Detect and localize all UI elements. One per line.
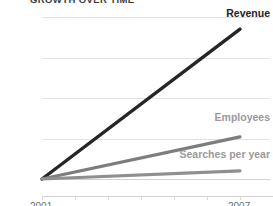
series-label-searches-per-year: Searches per year bbox=[180, 148, 270, 160]
series-lines bbox=[0, 0, 273, 206]
series-label-revenue: Revenue bbox=[226, 7, 270, 19]
series-label-employees: Employees bbox=[215, 111, 270, 123]
growth-chart-figure: GROWTH OVER TIME 200X 150X 100X 50X 0 20… bbox=[0, 0, 273, 206]
